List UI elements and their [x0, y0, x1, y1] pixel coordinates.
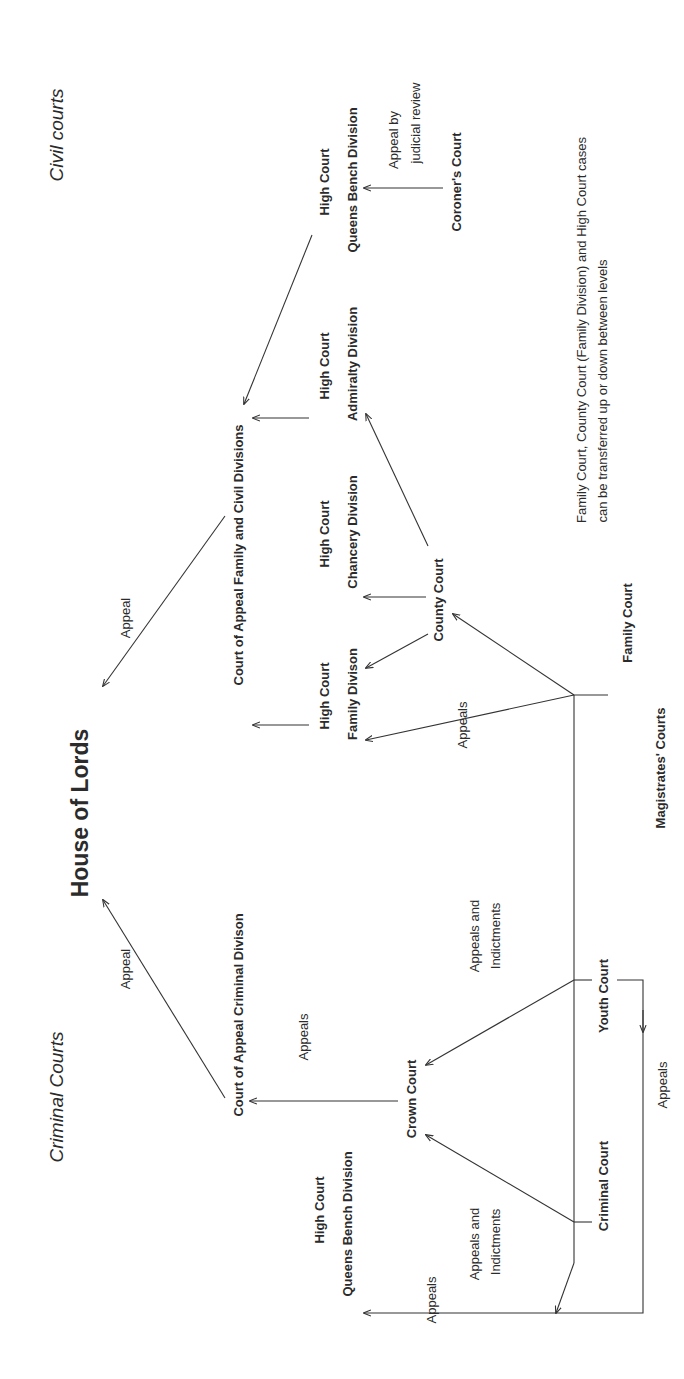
appeals-label-crown: Appeals	[296, 1013, 311, 1060]
edge-family-to-county	[453, 614, 574, 695]
edge-county-to-admiralty	[366, 414, 428, 546]
appeals-label-qbd: Appeals	[424, 1276, 439, 1323]
edge-youth-to-crown	[426, 980, 574, 1065]
criminal-courts-heading: Criminal Courts	[46, 1031, 67, 1162]
hc-admiralty-line1: High Court	[317, 332, 332, 400]
family-court: Family Court	[620, 583, 635, 663]
edge-family-to-hcfd	[366, 695, 574, 740]
hc-qbd-civil-line2: Queens Bench Division	[345, 107, 360, 252]
civil-courts-heading: Civil courts	[46, 88, 67, 181]
transfer-note-line1: Family Court, County Court (Family Divis…	[574, 137, 589, 523]
court-of-appeal-civil: Court of Appeal Family and Civil Divisio…	[231, 424, 246, 685]
transfer-note-line2: can be transferred up or down between le…	[595, 259, 610, 523]
hc-qbd-criminal-line1: High Court	[312, 1176, 327, 1244]
edge-qbd-to-coa	[244, 235, 312, 404]
edge-trunk-to-qbd	[556, 1263, 574, 1313]
hc-chancery-line1: High Court	[317, 500, 332, 568]
appeals-indictments-criminal-line2: Indictments	[488, 1208, 503, 1275]
hc-family-line1: High Court	[317, 662, 332, 730]
appeal-label-criminal: Appeal	[118, 949, 133, 990]
hc-family-line2: Family Divison	[345, 648, 360, 740]
house-of-lords: House of Lords	[67, 729, 93, 898]
court-of-appeal-criminal: Court of Appeal Criminal Divison	[231, 913, 246, 1116]
court-structure-diagram: Civil courts Criminal Courts House of Lo…	[0, 0, 684, 1379]
appeals-indictments-youth-line1: Appeals and	[467, 900, 482, 972]
hc-qbd-civil-line1: High Court	[317, 148, 332, 216]
appeals-label-family: Appeals	[455, 701, 470, 748]
judicial-review-label-line1: Appeal by	[386, 111, 401, 169]
coroners-court: Coroner's Court	[449, 132, 464, 232]
edge-coa-criminal-to-lords	[103, 900, 225, 1098]
hc-admiralty-line2: Admiralty Division	[345, 307, 360, 421]
appeal-label-civil: Appeal	[118, 598, 133, 639]
county-court: County Court	[431, 558, 446, 642]
crown-court: Crown Court	[404, 1059, 419, 1138]
appeals-indictments-youth-line2: Indictments	[488, 902, 503, 969]
judicial-review-label-line2: judicial review	[408, 82, 423, 165]
appeals-indictments-criminal-line1: Appeals and	[467, 1208, 482, 1280]
youth-court: Youth Court	[596, 958, 611, 1033]
magistrates-courts: Magistrates' Courts	[653, 708, 668, 829]
appeals-label-youth-loop: Appeals	[655, 1061, 670, 1108]
edge-county-to-hcfd	[366, 634, 428, 668]
criminal-court: Criminal Court	[596, 1140, 611, 1231]
hc-chancery-line2: Chancery Division	[345, 475, 360, 588]
hc-qbd-criminal-line2: Queens Bench Division	[340, 1151, 355, 1296]
